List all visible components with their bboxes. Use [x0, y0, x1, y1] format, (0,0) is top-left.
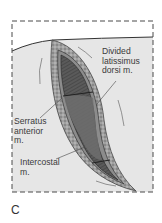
label-latissimus-dorsi: Divided latissimus dorsi m.: [102, 47, 140, 76]
panel-letter: C: [11, 203, 20, 217]
incision-diagram: [0, 0, 162, 223]
label-serratus-anterior: Serratus anterior m.: [14, 117, 46, 146]
label-intercostal: Intercostal m.: [20, 158, 60, 177]
surgical-illustration: Divided latissimus dorsi m. Serratus ant…: [0, 0, 162, 223]
